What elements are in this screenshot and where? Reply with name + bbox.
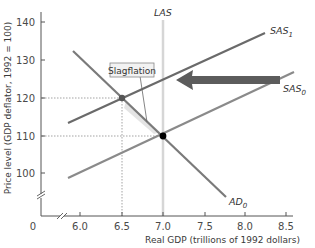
x-tick-label: 8.0 bbox=[237, 221, 253, 232]
y-ticks bbox=[41, 22, 45, 173]
sas0-label: SAS0 bbox=[283, 83, 307, 97]
sas0-curve bbox=[68, 72, 294, 178]
x-tick-label: 6.0 bbox=[72, 221, 88, 232]
y-tick-label: 120 bbox=[16, 93, 35, 104]
ad0-label: AD0 bbox=[228, 196, 248, 210]
y-tick-label: 130 bbox=[16, 55, 35, 66]
las-label: LAS bbox=[154, 7, 172, 18]
equilibrium-point-new bbox=[119, 95, 125, 101]
sas1-label: SAS1 bbox=[270, 25, 293, 39]
x-tick-label: 7.0 bbox=[155, 221, 171, 232]
y-tick-label: 140 bbox=[16, 17, 35, 28]
x-tick-label: 7.5 bbox=[197, 221, 213, 232]
x-tick-label: 6.5 bbox=[114, 221, 130, 232]
callout-text: Slagflation bbox=[108, 66, 156, 76]
y-axis-title: Price level (GDP deflator, 1992 = 100) bbox=[3, 22, 13, 195]
y-tick-label: 100 bbox=[16, 168, 35, 179]
x-tick-label: 8.5 bbox=[278, 221, 294, 232]
x-axis-title: Real GDP (trillions of 1992 dollars) bbox=[145, 235, 300, 245]
origin-label: 0 bbox=[30, 221, 36, 232]
equilibrium-point-initial bbox=[160, 133, 167, 140]
y-tick-label: 110 bbox=[16, 131, 35, 142]
stagflation-chart: LAS SAS0 SAS1 AD0 Slagflation 140 130 12… bbox=[0, 0, 315, 248]
x-ticks bbox=[80, 212, 286, 216]
